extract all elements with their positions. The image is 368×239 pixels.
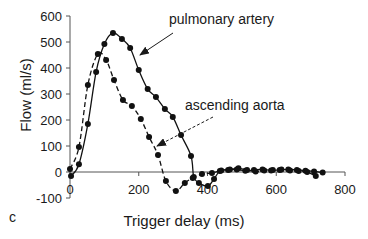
data-point [182,180,188,186]
data-point [296,168,302,174]
data-point [145,86,151,92]
data-point [199,171,205,177]
x-tick-label: 800 [334,182,356,197]
data-point [129,103,135,109]
data-point [67,166,73,172]
data-point [85,82,91,88]
data-point [209,170,215,176]
y-tick-label: 100 [40,139,62,154]
data-point [190,175,196,181]
data-point [211,176,217,182]
data-point [162,106,168,112]
data-point [287,167,293,173]
data-point [170,114,176,120]
x-tick-label: 200 [128,182,150,197]
annotation-label: pulmonary artery [169,11,274,27]
data-point [95,51,101,57]
data-point [103,57,109,63]
data-point [173,188,179,194]
x-tick-label: 600 [265,182,287,197]
data-point [270,167,276,173]
data-point [304,169,310,175]
data-point [313,173,319,179]
data-point [111,77,117,83]
y-tick-label: 0 [55,165,62,180]
annotations: pulmonary arteryascending aorta [140,11,285,146]
data-point [138,116,144,122]
y-tick-label: 500 [40,35,62,50]
data-point [119,36,125,42]
y-tick-label: 600 [40,9,62,24]
data-point [155,152,161,158]
y-tick-label: 300 [40,87,62,102]
x-axis-title: Trigger delay (ms) [123,212,244,229]
panel-label: c [9,209,16,225]
data-point [235,165,241,171]
data-point [253,168,259,174]
data-point [76,144,82,150]
arrow-icon [140,33,173,55]
data-point [76,161,82,167]
data-point [244,167,250,173]
data-point [278,166,284,172]
data-point [196,180,202,186]
data-point [178,132,184,138]
data-point [227,166,233,172]
data-point [320,170,326,176]
data-point [110,30,116,36]
data-point [205,183,211,189]
y-tick-label: 400 [40,61,62,76]
data-point [136,67,142,73]
data-point [101,41,107,47]
data-point [218,167,224,173]
data-point [93,69,99,75]
x-tick-label: 0 [66,182,73,197]
annotation-label: ascending aorta [185,97,285,113]
flow-chart: -10001002003004005006000200400600800 pul… [0,0,368,239]
data-point [261,167,267,173]
data-point [120,97,126,103]
data-point [68,173,74,179]
y-axis-title: Flow (ml/s) [17,58,34,131]
data-point [153,94,159,100]
y-tick-label: 200 [40,113,62,128]
data-point [127,45,133,51]
data-point [146,134,152,140]
y-tick-label: -100 [36,191,62,206]
data-point [188,153,194,159]
data-point [163,178,169,184]
data-point [85,121,91,127]
